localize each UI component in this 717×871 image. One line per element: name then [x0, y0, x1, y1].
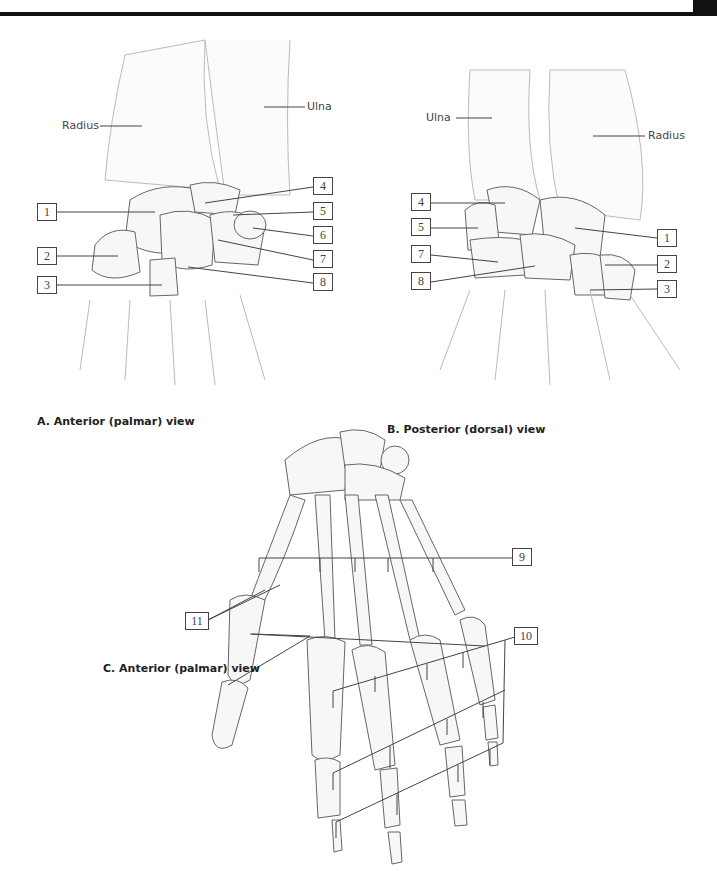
label-box-b-1: 1 — [657, 229, 677, 247]
label-box-a-4: 4 — [313, 177, 333, 195]
label-box-b-4: 4 — [411, 193, 431, 211]
label-box-c-10: 10 — [514, 627, 538, 645]
label-box-a-7: 7 — [313, 250, 333, 268]
label-box-a-2: 2 — [37, 247, 57, 265]
label-box-b-3: 3 — [657, 280, 677, 298]
caption-a: A. Anterior (palmar) view — [37, 415, 195, 428]
label-box-c-9: 9 — [512, 548, 532, 566]
radius-label-b: Radius — [648, 129, 685, 142]
label-box-b-8: 8 — [411, 272, 431, 290]
caption-b: B. Posterior (dorsal) view — [387, 423, 545, 436]
hand-wrist-illustration — [0, 0, 717, 871]
label-box-b-7: 7 — [411, 245, 431, 263]
ulna-label-b: Ulna — [426, 111, 451, 124]
radius-label-a: Radius — [62, 119, 99, 132]
ulna-label-a: Ulna — [307, 100, 332, 113]
label-box-b-2: 2 — [657, 255, 677, 273]
label-box-a-6: 6 — [313, 226, 333, 244]
caption-c: C. Anterior (palmar) view — [103, 662, 260, 675]
label-box-a-5: 5 — [313, 202, 333, 220]
label-box-a-1: 1 — [37, 203, 57, 221]
label-box-b-5: 5 — [411, 218, 431, 236]
label-box-a-3: 3 — [37, 276, 57, 294]
label-box-a-8: 8 — [313, 273, 333, 291]
label-box-c-11: 11 — [185, 612, 209, 630]
